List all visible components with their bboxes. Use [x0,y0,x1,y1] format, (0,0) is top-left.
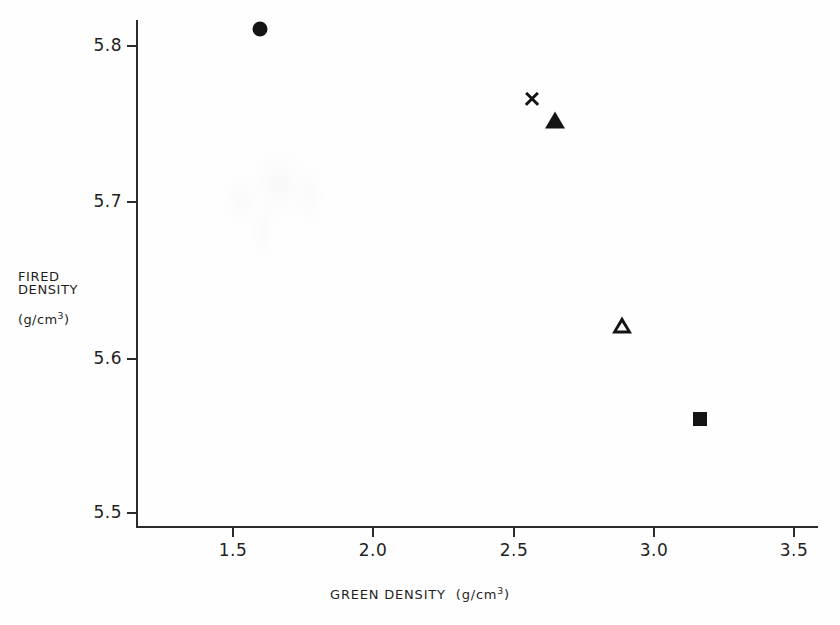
y-tick-5.6 [127,358,136,360]
y-axis-line [136,20,138,528]
y-unit-open: (g/cm [18,312,58,327]
paper-artifact [180,130,360,260]
data-point-cross-1 [524,91,540,107]
x-axis-line [136,526,818,528]
y-tick-label-5.6: 5.6 [62,348,122,368]
x-tick-1.5 [232,528,234,537]
y-tick-5.8 [127,45,136,47]
scatter-plot-figure: 5.8 5.7 5.6 5.5 1.5 2.0 2.5 3.0 3.5 FIRE… [0,0,840,625]
y-axis-title-line2: DENSITY [18,282,78,297]
x-tick-label-3.0: 3.0 [624,540,684,560]
data-marker-layer [0,0,840,17]
x-tick-2.5 [513,528,515,537]
y-tick-label-5.7: 5.7 [62,191,122,211]
x-unit-close: ) [504,587,510,602]
y-unit-close: ) [64,312,69,327]
x-axis-title: GREEN DENSITY(g/cm3) [0,585,840,602]
y-tick-5.7 [127,201,136,203]
x-tick-label-2.0: 2.0 [343,540,403,560]
x-axis-title-main: GREEN DENSITY [330,587,446,602]
x-tick-3.5 [793,528,795,537]
data-point-open-triangle-3 [612,317,632,334]
data-point-filled-square-4 [693,412,707,426]
x-unit-open: (g/cm [456,587,498,602]
x-tick-label-2.5: 2.5 [484,540,544,560]
y-tick-5.5 [127,512,136,514]
x-tick-2.0 [372,528,374,537]
y-tick-label-5.8: 5.8 [62,35,122,55]
y-axis-title: FIRED DENSITY (g/cm3) [18,270,78,326]
y-tick-label-5.5: 5.5 [62,502,122,522]
x-tick-3.0 [653,528,655,537]
y-axis-title-unit: (g/cm3) [18,309,78,326]
data-point-filled-circle-0 [253,22,268,37]
x-tick-label-3.5: 3.5 [764,540,824,560]
data-point-filled-triangle-2 [545,111,565,128]
x-tick-label-1.5: 1.5 [203,540,263,560]
